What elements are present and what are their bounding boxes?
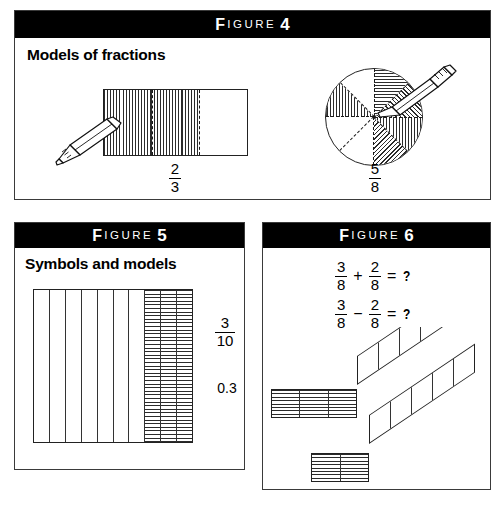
band-cell (400, 327, 421, 355)
page-title: Symbols and models (25, 255, 176, 273)
figure-label-initial: F (215, 17, 227, 33)
band-cell (421, 327, 442, 341)
grid-column (98, 290, 114, 442)
tenths-fraction-label: 3 10 (205, 315, 245, 349)
fraction-denominator: 3 (169, 178, 181, 195)
strip-cell-hatched (341, 454, 369, 481)
fraction-numerator: 2 (369, 297, 381, 313)
grid-column (50, 290, 66, 442)
figure-5-titlebar: FIGURE5 (15, 223, 244, 248)
figure-label-initial: F (92, 228, 104, 244)
fraction-operand-left: 3 8 (335, 259, 347, 293)
grid-column-shaded (161, 290, 177, 442)
fraction-five-eighths: 5 8 (369, 161, 381, 195)
band-cell (454, 345, 474, 385)
figure-4-panel: FIGURE4 Models of fractions 2 3 (14, 10, 491, 200)
grid-column (82, 290, 98, 442)
band-cell (391, 387, 412, 428)
band-cell (379, 328, 400, 369)
fraction-operand-left: 3 8 (335, 297, 347, 331)
figure-label-word: IGURE (227, 19, 276, 31)
grid-column (34, 290, 50, 442)
equals-symbol: = (386, 305, 397, 323)
fraction-numerator: 3 (219, 315, 231, 331)
band-cell (358, 342, 379, 383)
rectangle-fraction-label: 2 3 (152, 161, 198, 195)
grid-column (129, 290, 145, 442)
fraction-denominator: 8 (369, 178, 381, 195)
strip-cell-hatched (312, 454, 341, 481)
circle-spoke-5 (326, 116, 374, 117)
grid-column-shaded (177, 290, 192, 442)
circle-spoke-4 (339, 116, 374, 151)
equals-symbol: = (386, 267, 397, 285)
tenths-grid-model (33, 289, 193, 443)
figure-6-panel: FIGURE6 3 8 + 2 8 = ? 3 8 − 2 8 = ? (262, 222, 491, 490)
pencil-icon (370, 63, 458, 121)
lower-strip-front-face (311, 453, 369, 482)
fraction-three-tenths: 3 10 (215, 315, 236, 349)
result-placeholder: ? (403, 267, 410, 284)
band-cell (433, 359, 454, 400)
grid-column-shaded (145, 290, 161, 442)
figure-label-word: IGURE (104, 230, 153, 242)
figure-number: 5 (157, 227, 166, 244)
strip-cell-hatched (300, 390, 328, 417)
figure-label-initial: F (339, 228, 351, 244)
band-cell (412, 373, 433, 414)
result-placeholder: ? (403, 305, 410, 322)
fraction-numerator: 2 (169, 161, 181, 177)
figure-4-titlebar: FIGURE4 (15, 11, 490, 38)
band-cell (370, 401, 391, 442)
operator-symbol: − (352, 305, 363, 323)
strip-cell-hatched (272, 390, 300, 417)
fraction-operand-right: 2 8 (369, 259, 381, 293)
figure-label-word: IGURE (351, 230, 400, 242)
addition-equation: 3 8 + 2 8 = ? (335, 259, 412, 293)
upper-strip-front-face (271, 389, 357, 418)
fraction-numerator: 3 (335, 297, 347, 313)
rectangle-divider-1 (152, 90, 153, 155)
figure-number: 6 (404, 227, 413, 244)
fraction-two-thirds: 2 3 (169, 161, 181, 195)
fraction-numerator: 3 (335, 259, 347, 275)
subtraction-equation: 3 8 − 2 8 = ? (335, 297, 412, 331)
fraction-numerator: 5 (369, 161, 381, 177)
fraction-denominator: 8 (335, 276, 347, 293)
circle-fraction-label: 5 8 (352, 161, 398, 195)
rectangle-divider-2 (199, 90, 200, 155)
fraction-numerator: 2 (369, 259, 381, 275)
figure-6-titlebar: FIGURE6 (263, 223, 490, 248)
decimal-label: 0.3 (205, 380, 249, 396)
three-dimensional-strip-diagram (263, 327, 492, 487)
page-title: Models of fractions (27, 46, 165, 64)
figure-number: 4 (280, 16, 289, 33)
fraction-operand-right: 2 8 (369, 297, 381, 331)
grid-column (66, 290, 82, 442)
grid-column (114, 290, 130, 442)
operator-symbol: + (352, 267, 363, 285)
circle-spoke-3 (373, 117, 374, 165)
fraction-denominator: 10 (215, 332, 236, 349)
strip-cell-hatched (329, 390, 356, 417)
fraction-denominator: 8 (369, 276, 381, 293)
figure-5-panel: FIGURE5 Symbols and models 3 10 0.3 (14, 222, 245, 470)
pencil-icon (55, 115, 127, 167)
